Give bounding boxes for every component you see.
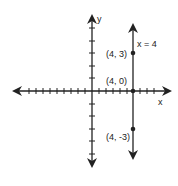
- x-axis-label: x: [158, 98, 163, 107]
- point-4-neg3: [131, 127, 136, 132]
- point-4-3: [131, 51, 136, 56]
- coordinate-plane: [0, 0, 178, 186]
- line-label: x = 4: [137, 40, 157, 49]
- point-label-4-3: (4, 3): [106, 50, 127, 59]
- point-label-4-neg3: (4, -3): [106, 133, 130, 142]
- y-axis-label: y: [97, 15, 102, 24]
- point-4-0: [131, 89, 136, 94]
- point-label-4-0: (4, 0): [106, 77, 127, 86]
